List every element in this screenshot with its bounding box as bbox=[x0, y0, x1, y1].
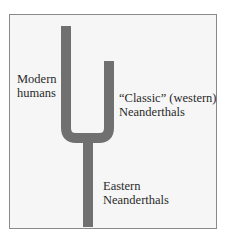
modern-humans-branch bbox=[66, 26, 109, 138]
label-line: Neanderthals bbox=[103, 193, 169, 207]
label-line: Neanderthals bbox=[119, 105, 217, 119]
label-line: “Classic” (western) bbox=[119, 91, 217, 105]
eastern-neanderthals-stem bbox=[83, 138, 93, 227]
label-line: humans bbox=[17, 86, 57, 100]
label-line: Eastern bbox=[103, 179, 169, 193]
label-line: Modern bbox=[17, 72, 57, 86]
label-classic-neanderthals: “Classic” (western) Neanderthals bbox=[119, 91, 217, 119]
label-modern-humans: Modern humans bbox=[17, 72, 57, 100]
tree-diagram bbox=[0, 0, 228, 252]
label-eastern-neanderthals: Eastern Neanderthals bbox=[103, 179, 169, 207]
